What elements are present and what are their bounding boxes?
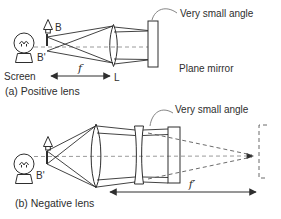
lens-diagram-svg: B B' Screen f L Very small angle Plane m… xyxy=(0,0,281,219)
ray xyxy=(114,27,148,31)
panel-b-negative-lens: B' Very small angle f′ (b) Negative lens xyxy=(14,104,267,209)
lamp-filament xyxy=(20,42,29,47)
ray xyxy=(114,59,148,60)
arrow-up-icon xyxy=(44,20,53,30)
plane-mirror-a xyxy=(148,21,158,67)
label-f-prime: f′ xyxy=(188,178,196,191)
ray xyxy=(47,126,96,164)
caption-b: (b) Negative lens xyxy=(15,197,94,209)
lamp-filament xyxy=(20,163,29,168)
leader-line-b xyxy=(150,110,173,126)
lamp-icon xyxy=(14,33,34,63)
label-B: B xyxy=(55,22,62,33)
ray xyxy=(97,133,135,136)
label-B-prime-a: B' xyxy=(37,52,46,63)
lamp-base xyxy=(16,175,33,184)
positive-lens xyxy=(110,25,118,67)
ray xyxy=(97,182,135,187)
ray xyxy=(143,129,168,130)
negative-lens xyxy=(135,126,144,184)
ray xyxy=(114,31,148,32)
object-arrow-a xyxy=(44,20,53,47)
arrow-up-icon xyxy=(44,137,53,147)
label-angle-note-a: Very small angle xyxy=(180,8,254,19)
label-screen: Screen xyxy=(4,71,36,82)
label-B-prime-b: B' xyxy=(36,170,45,181)
lamp-icon-b xyxy=(14,154,34,184)
arrow-stem xyxy=(46,30,51,34)
virtual-ray xyxy=(148,133,252,155)
label-L: L xyxy=(114,72,120,83)
ray xyxy=(47,164,96,187)
ray xyxy=(47,37,113,63)
label-plane-mirror: Plane mirror xyxy=(179,63,234,74)
image-plane-bracket xyxy=(259,125,267,178)
optical-axis-b xyxy=(34,156,246,157)
virtual-ray xyxy=(148,157,252,179)
ray xyxy=(97,177,135,180)
lamp-base xyxy=(16,54,33,63)
ray xyxy=(97,126,135,130)
ray xyxy=(143,182,168,183)
optics-figure: B B' Screen f L Very small angle Plane m… xyxy=(0,0,281,219)
label-angle-note-b: Very small angle xyxy=(175,104,249,115)
panel-a-positive-lens: B B' Screen f L Very small angle Plane m… xyxy=(4,8,254,97)
ray xyxy=(47,126,96,151)
caption-a: (a) Positive lens xyxy=(5,85,80,97)
leader-line-a xyxy=(152,9,177,20)
ray xyxy=(114,60,148,64)
label-f: f xyxy=(77,62,84,75)
